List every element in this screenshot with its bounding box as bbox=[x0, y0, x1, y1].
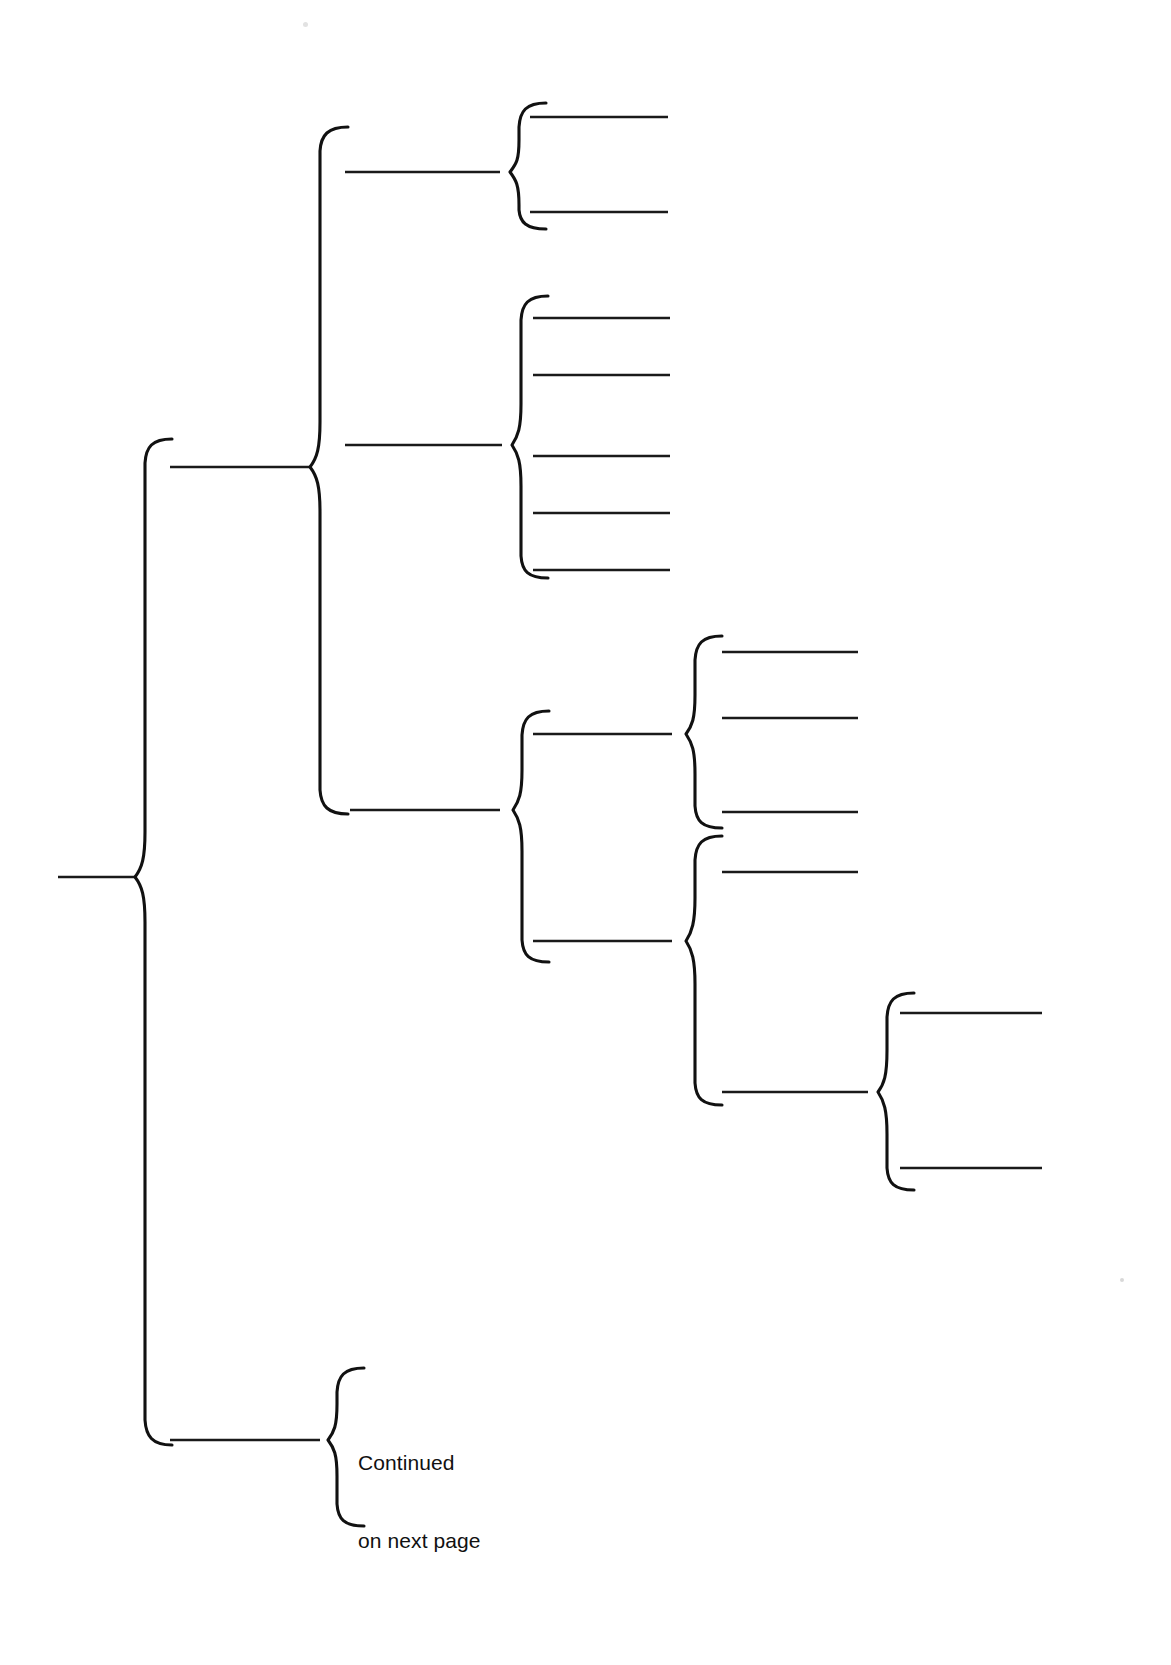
brace-n1c1 bbox=[686, 636, 722, 828]
scan-speck bbox=[1120, 1278, 1124, 1282]
brace-n1 bbox=[310, 127, 348, 814]
brace-n1c2b bbox=[878, 993, 914, 1190]
brace-root bbox=[135, 439, 172, 1445]
continued-note-line-1: Continued bbox=[358, 1450, 481, 1476]
classification-chart: Continued on next page bbox=[0, 0, 1171, 1665]
continued-note-line-2: on next page bbox=[358, 1528, 481, 1554]
brace-n1c bbox=[513, 711, 549, 962]
scan-speck bbox=[303, 22, 308, 27]
continued-note: Continued on next page bbox=[358, 1398, 481, 1606]
brace-n1a bbox=[510, 103, 546, 229]
brace-tree-graphic bbox=[0, 0, 1171, 1665]
brace-n1b bbox=[512, 296, 548, 578]
brace-n1c2 bbox=[686, 836, 722, 1105]
